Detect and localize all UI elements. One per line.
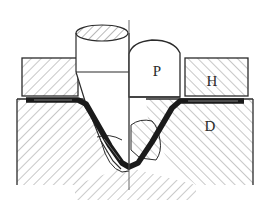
punch-top-ellipse xyxy=(76,25,128,41)
label-die: D xyxy=(205,118,216,134)
label-blank-holder: H xyxy=(207,73,218,89)
diagram-canvas: P H D xyxy=(0,0,257,211)
label-punch: P xyxy=(153,63,161,79)
forming-process-diagram: P H D xyxy=(0,0,257,211)
blank-holder-left xyxy=(22,58,78,96)
